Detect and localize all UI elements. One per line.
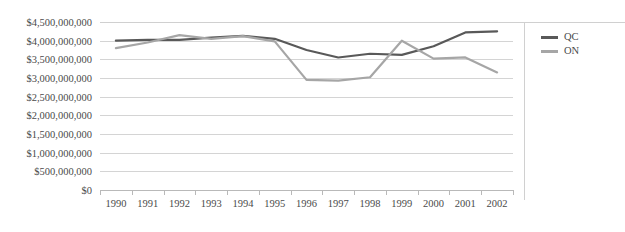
series-line-on	[116, 35, 497, 81]
x-axis-tick-mark	[132, 190, 133, 195]
y-axis-tick-labels: $4,500,000,000$4,000,000,000$3,500,000,0…	[0, 0, 96, 232]
x-axis-tick-label: 1997	[328, 198, 349, 209]
x-axis-tick-mark	[513, 190, 514, 195]
series-lines	[100, 22, 513, 190]
x-axis-tick-mark	[481, 190, 482, 195]
x-axis-tick-mark	[386, 190, 387, 195]
x-axis-tick-label: 1994	[232, 198, 253, 209]
x-axis-tick-labels: 1990199119921993199419951996199719981999…	[100, 198, 513, 222]
y-axis-tick-label: $4,000,000,000	[26, 35, 92, 46]
x-axis-tick-label: 1991	[137, 198, 158, 209]
x-axis-tick-label: 1993	[201, 198, 222, 209]
x-axis-tick-label: 2002	[487, 198, 508, 209]
x-axis-tick-label: 1995	[264, 198, 285, 209]
y-axis-tick-label: $4,500,000,000	[26, 17, 92, 28]
x-axis-tick-label: 1992	[169, 198, 190, 209]
y-axis-tick-label: $0	[82, 185, 93, 196]
legend-divider	[524, 22, 525, 200]
x-axis-tick-mark	[259, 190, 260, 195]
legend-label: ON	[564, 46, 579, 57]
x-axis-tick-label: 1999	[391, 198, 412, 209]
y-axis-tick-label: $2,500,000,000	[26, 91, 92, 102]
x-axis-tick-label: 1996	[296, 198, 317, 209]
y-axis-tick-label: $500,000,000	[34, 166, 92, 177]
legend-item-on[interactable]: ON	[541, 45, 621, 58]
x-axis-tick-mark	[291, 190, 292, 195]
x-axis-tick-label: 1998	[360, 198, 381, 209]
y-axis-tick-label: $2,000,000,000	[26, 110, 92, 121]
x-axis-tick-label: 2001	[455, 198, 476, 209]
legend-label: QC	[564, 32, 579, 43]
y-axis-tick-label: $3,000,000,000	[26, 73, 92, 84]
plot-area	[100, 22, 513, 190]
x-axis-tick-mark	[227, 190, 228, 195]
x-axis-tick-mark	[449, 190, 450, 195]
x-axis-tick-mark	[164, 190, 165, 195]
series-line-qc	[116, 31, 497, 57]
y-axis-tick-label: $1,000,000,000	[26, 147, 92, 158]
x-axis-baseline	[100, 190, 513, 191]
y-axis-tick-label: $3,500,000,000	[26, 54, 92, 65]
x-axis-tick-mark	[322, 190, 323, 195]
x-axis-tick-mark	[418, 190, 419, 195]
legend-item-qc[interactable]: QC	[541, 31, 621, 44]
x-axis-tick-label: 2000	[423, 198, 444, 209]
x-axis-tick-mark	[195, 190, 196, 195]
chart-legend: QCON	[541, 31, 621, 59]
x-axis-tick-mark	[100, 190, 101, 195]
legend-swatch-on	[541, 50, 558, 53]
top-gridline-extension	[100, 22, 625, 23]
legend-swatch-qc	[541, 36, 558, 39]
x-axis-tick-mark	[354, 190, 355, 195]
line-chart: $4,500,000,000$4,000,000,000$3,500,000,0…	[0, 0, 625, 232]
x-axis-tick-label: 1990	[105, 198, 126, 209]
y-axis-tick-label: $1,500,000,000	[26, 129, 92, 140]
